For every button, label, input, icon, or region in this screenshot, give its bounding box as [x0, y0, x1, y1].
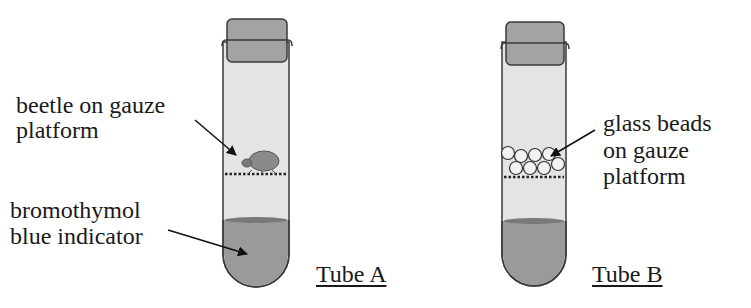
indicator-label-line2: blue indicator: [10, 224, 143, 248]
indicator-label-line1: bromothymol: [10, 198, 141, 222]
tube-a: [168, 19, 292, 287]
beads-label-line1: glass beads: [603, 111, 712, 135]
tube-a-caption: Tube A: [316, 262, 386, 286]
tube-a-liquid-surface: [225, 217, 287, 223]
beads-label-line2: on gauze: [603, 138, 689, 162]
tube-b-liquid-surface: [504, 218, 564, 224]
beads-label-line3: platform: [603, 164, 686, 188]
beetle-label-line1: beetle on gauze: [16, 93, 165, 117]
tube-b-indicator-liquid: [503, 221, 565, 285]
tube-a-indicator-liquid: [224, 220, 288, 286]
tube-b-caption: Tube B: [592, 262, 662, 286]
tube-b: [501, 22, 595, 286]
beetle-label-line2: platform: [16, 118, 99, 142]
